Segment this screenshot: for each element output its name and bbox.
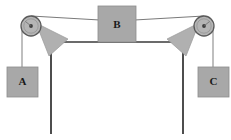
block-a: A <box>7 67 38 97</box>
pulley-diagram-figure: B A C <box>0 0 231 140</box>
block-b: B <box>98 6 136 42</box>
pulley-right <box>194 16 214 36</box>
block-a-label: A <box>19 75 27 87</box>
block-c: C <box>198 67 229 97</box>
block-b-label: B <box>113 18 121 30</box>
block-c-label: C <box>210 75 218 87</box>
pulley-diagram-canvas: B A C <box>0 0 231 140</box>
pulley-left <box>21 16 41 36</box>
support-structure-group <box>51 41 183 134</box>
